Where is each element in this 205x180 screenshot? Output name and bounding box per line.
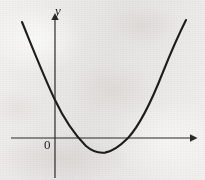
origin-label: 0 (44, 138, 51, 151)
parabola-curve (22, 20, 186, 153)
y-axis-label: y (55, 4, 61, 17)
x-axis-arrowhead (190, 134, 198, 142)
graph-figure: y 0 (0, 0, 205, 180)
x-axis (11, 134, 198, 142)
plot-canvas (0, 0, 205, 180)
